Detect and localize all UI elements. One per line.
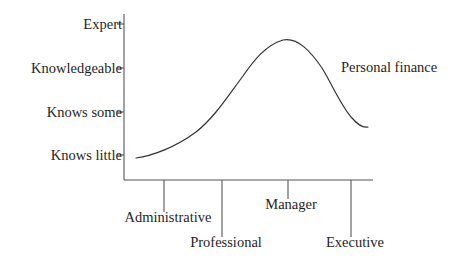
y-axis-label-knows-some: Knows some bbox=[47, 105, 122, 120]
x-axis-label-manager: Manager bbox=[265, 197, 317, 212]
chart-canvas: Expert Knowledgeable Knows some Knows li… bbox=[0, 0, 463, 265]
x-axis-label-professional: Professional bbox=[190, 235, 262, 250]
x-axis-label-executive: Executive bbox=[326, 235, 384, 250]
chart-plot-area bbox=[0, 0, 463, 265]
curve-annotation-personal-finance: Personal finance bbox=[341, 60, 437, 75]
personal-finance-curve bbox=[136, 40, 368, 158]
y-axis-label-knows-little: Knows little bbox=[51, 148, 122, 163]
x-axis-label-administrative: Administrative bbox=[125, 210, 212, 225]
y-axis-label-expert: Expert bbox=[83, 17, 122, 32]
y-axis-label-knowledgeable: Knowledgeable bbox=[31, 61, 122, 76]
